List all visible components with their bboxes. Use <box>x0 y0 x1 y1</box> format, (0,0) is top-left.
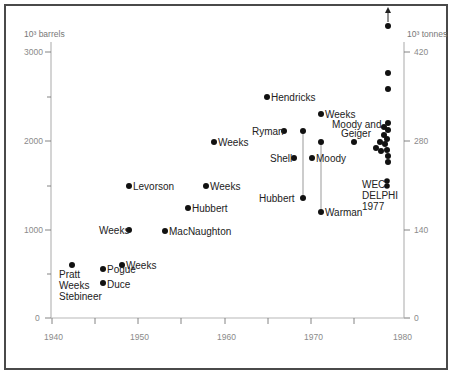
label-ryman: Ryman <box>252 126 284 137</box>
label-geiger: Geiger <box>341 128 372 139</box>
label-shell: Shell <box>270 153 292 164</box>
label-levorson: Levorson <box>133 181 174 192</box>
y-tick-3000: 3000 <box>24 47 43 57</box>
label-weeks-1948: Weeks <box>126 260 156 271</box>
label-delphi: DELPHI <box>362 190 398 201</box>
x-axis: 1940 1950 1960 1970 1980 <box>44 318 412 342</box>
label-hendricks: Hendricks <box>271 92 315 103</box>
label-1977: 1977 <box>362 201 385 212</box>
y2-tick-420: 420 <box>414 47 428 57</box>
label-macnaughton: MacNaughton <box>169 226 231 237</box>
label-weeks-1959: Weeks <box>218 137 248 148</box>
label-wec: WEC <box>362 179 385 190</box>
right-unit-label: 10³ tonnes <box>407 29 447 39</box>
label-pratt: Pratt <box>59 269 80 280</box>
label-duce: Duce <box>107 279 131 290</box>
label-weeks-1942: Weeks <box>59 280 89 291</box>
y2-tick-140: 140 <box>414 225 428 235</box>
label-warman: Warman <box>325 207 362 218</box>
label-hubbert-1969: Hubbert <box>259 193 295 204</box>
left-unit-label: 10³ barrels <box>24 29 65 39</box>
y2-tick-0: 0 <box>414 313 419 323</box>
x-tick-1960: 1960 <box>217 332 236 342</box>
x-tick-1940: 1940 <box>44 332 63 342</box>
y-tick-1000: 1000 <box>24 225 43 235</box>
y-tick-2000: 2000 <box>24 136 43 146</box>
label-weeks-1949: Weeks <box>99 225 129 236</box>
y-tick-0: 0 <box>35 313 40 323</box>
right-y-axis: 10³ tonnes 420 280 140 0 <box>404 29 447 323</box>
x-tick-1950: 1950 <box>130 332 149 342</box>
label-weeks-1958: Weeks <box>210 181 240 192</box>
point-labels: Pratt Weeks Stebineer Pogue Duce Weeks W… <box>59 92 398 302</box>
y2-tick-280: 280 <box>414 136 428 146</box>
x-tick-1970: 1970 <box>304 332 323 342</box>
x-tick-1980: 1980 <box>393 332 412 342</box>
label-moody: Moody <box>316 153 346 164</box>
label-stebineer: Stebineer <box>59 291 102 302</box>
scatter-chart: 10³ barrels 3000 2000 1000 0 10³ tonnes … <box>0 0 451 374</box>
label-hubbert-1956: Hubbert <box>192 203 228 214</box>
offscale-arrow-icon <box>385 7 391 22</box>
